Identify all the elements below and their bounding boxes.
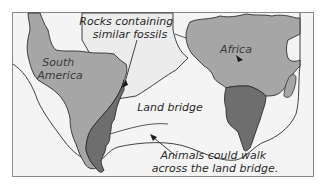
africa-label: Africa — [219, 43, 252, 56]
land-bridge-label: Land bridge — [137, 101, 203, 114]
rocks-callout-label: Rocks containing similar fossils — [79, 15, 176, 41]
south-america-label: South America — [36, 56, 83, 82]
land-bridge-diagram: South America Africa Rocks containing si… — [0, 0, 322, 186]
animals-callout-label: Animals could walk across the land bridg… — [152, 149, 279, 175]
